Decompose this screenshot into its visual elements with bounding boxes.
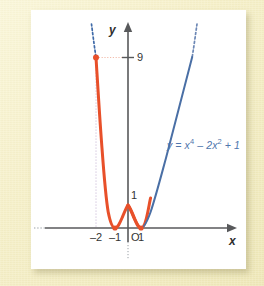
equation-label: y = x4 – 2x2 + 1 — [167, 138, 240, 150]
x-tick-label-minus-one: –1 — [109, 232, 121, 243]
x-tick-label-one: 1 — [138, 232, 144, 243]
y-axis-label: y — [109, 24, 116, 36]
y-tick-label-nine: 9 — [137, 52, 143, 63]
curve-segment-highlighted-right-min — [128, 205, 141, 228]
figure-container: y x 9 1 –2 –1 O 1 y = x4 – 2x2 + 1 — [0, 0, 264, 286]
point-marker-minus-one-zero — [112, 225, 117, 230]
x-axis-label: x — [229, 235, 236, 247]
equation-part-lead: y = x — [167, 139, 190, 151]
curve-segment-highlighted — [96, 58, 151, 229]
curve-dotted-upper-right — [192, 24, 197, 57]
point-marker-minus-two-nine — [93, 55, 99, 61]
point-marker-one-zero — [138, 225, 143, 230]
x-axis-arrow — [227, 224, 237, 232]
equation-part-end: + 1 — [222, 139, 240, 151]
x-tick-label-minus-two: –2 — [90, 232, 102, 243]
equation-part-mid: – 2x — [194, 139, 217, 151]
y-tick-label-one: 1 — [131, 190, 137, 201]
graph-plot-area: y x 9 1 –2 –1 O 1 y = x4 – 2x2 + 1 — [31, 10, 246, 269]
y-axis-arrow — [124, 22, 132, 32]
curve-dotted-upper-left — [92, 24, 97, 58]
